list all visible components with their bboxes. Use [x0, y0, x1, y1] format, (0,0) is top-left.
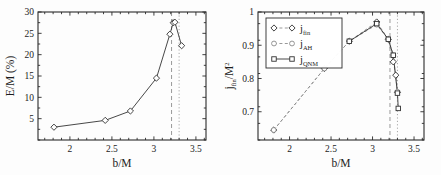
data-point [395, 91, 399, 95]
y-tick-label: 0.8 [242, 74, 254, 84]
x-tick-label: 3.5 [408, 144, 420, 154]
data-point [102, 117, 108, 123]
right-panel-legend: jfinjAHjQNM [266, 18, 342, 68]
y-tick-label: 0.7 [242, 107, 254, 117]
left-curve [54, 22, 182, 127]
x-tick-label: 3 [370, 144, 375, 154]
svg-text:jfin/M2: jfin/M2 [223, 62, 237, 90]
legend-marker-j_QNM [272, 57, 276, 61]
data-point [386, 37, 390, 41]
x-tick-label: 2.5 [106, 144, 118, 154]
y-title-div: /M [223, 66, 235, 79]
y-tick-label: 25 [25, 29, 35, 39]
left-data-markers [51, 19, 185, 130]
right-panel-svg: 22.533.5 0.70.80.91 jfinjAHjQNM b/M jfin… [220, 0, 441, 175]
data-point [391, 53, 395, 57]
right-x-tick-labels: 22.533.5 [287, 144, 420, 154]
right-panel: 22.533.5 0.70.80.91 jfinjAHjQNM b/M jfin… [220, 0, 441, 175]
figure-container: 22.533.5 51015202530 b/M E/M (%) 22.533.… [0, 0, 441, 175]
data-point [347, 39, 351, 43]
left-panel: 22.533.5 51015202530 b/M E/M (%) [0, 0, 220, 175]
x-tick-label: 3 [152, 144, 157, 154]
right-y-tick-labels: 0.70.80.91 [242, 7, 254, 117]
y-tick-label: 15 [25, 71, 35, 81]
data-point [396, 106, 400, 110]
x-tick-label: 2.5 [325, 144, 337, 154]
legend-marker-j_QNM [290, 57, 294, 61]
data-point [271, 128, 276, 133]
data-point [51, 124, 57, 130]
left-x-tick-labels: 22.533.5 [68, 144, 203, 154]
left-y-tick-labels: 51015202530 [25, 7, 35, 124]
y-tick-label: 5 [29, 114, 34, 124]
y-title-sup: 2 [223, 62, 230, 65]
left-y-axis-title: E/M (%) [4, 56, 17, 97]
right-y-axis-title: jfin/M2 [223, 62, 237, 90]
x-tick-label: 2 [68, 144, 73, 154]
left-reference-lines [172, 12, 180, 140]
right-x-axis-title: b/M [331, 157, 350, 169]
left-plot-frame [38, 12, 206, 140]
series-line-j_QNM [349, 24, 398, 109]
data-point [390, 59, 396, 65]
y-tick-label: 0.9 [242, 41, 254, 51]
y-tick-label: 20 [25, 50, 35, 60]
left-axis-ticks [38, 12, 206, 140]
series-line-left-panel [54, 22, 182, 127]
left-x-axis-title: b/M [112, 157, 131, 169]
y-tick-label: 1 [249, 7, 254, 17]
left-panel-svg: 22.533.5 51015202530 b/M E/M (%) [0, 0, 220, 175]
y-tick-label: 30 [25, 7, 35, 17]
legend-marker-j_AH [272, 41, 277, 46]
x-tick-label: 2 [287, 144, 292, 154]
data-point [393, 72, 399, 78]
data-point [374, 21, 378, 25]
y-tick-label: 10 [25, 93, 35, 103]
x-tick-label: 3.5 [190, 144, 202, 154]
legend-marker-j_AH [290, 41, 295, 46]
